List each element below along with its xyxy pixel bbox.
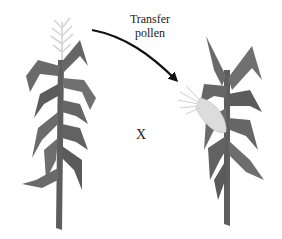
- silk-icon: [178, 86, 200, 114]
- right-corn-plant: [178, 36, 264, 226]
- arrow-label-line1: Transfer: [118, 12, 182, 26]
- ear-icon: [196, 98, 226, 133]
- arrow-label: Transfer pollen: [118, 12, 182, 40]
- arrow-label-line2: pollen: [118, 26, 182, 40]
- left-corn-plant: [22, 18, 96, 230]
- cross-symbol: X: [134, 128, 148, 142]
